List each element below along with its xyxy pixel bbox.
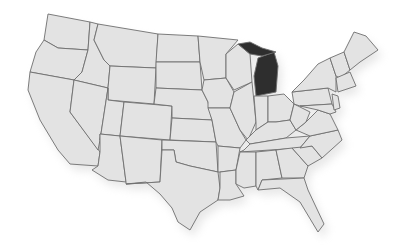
states-layer: WashingtonOregonCaliforniaIdahoNevadaMon… [28, 14, 378, 232]
state-new-mexico: New Mexico [120, 136, 162, 184]
state-kansas: Kansas [170, 118, 216, 142]
state-wyoming: Wyoming [108, 66, 156, 104]
state-mississippi: Mississippi [236, 152, 256, 188]
us-map-svg: WashingtonOregonCaliforniaIdahoNevadaMon… [0, 0, 420, 248]
state-colorado: Colorado [120, 102, 172, 140]
us-map: WashingtonOregonCaliforniaIdahoNevadaMon… [0, 0, 420, 248]
state-new-york: New York [292, 58, 336, 92]
state-michigan: Michigan [254, 52, 278, 96]
state-north-dakota: North Dakota [156, 34, 200, 62]
state-florida: Florida [258, 178, 324, 232]
state-south-dakota: South Dakota [156, 62, 202, 90]
